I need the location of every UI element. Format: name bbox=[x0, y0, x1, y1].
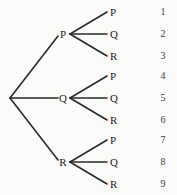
outcome-number-6: 6 bbox=[156, 115, 170, 125]
node-label-stage1-q: Q bbox=[57, 93, 69, 104]
outcome-number-5: 5 bbox=[156, 93, 170, 103]
outcome-number-2: 2 bbox=[156, 29, 170, 39]
leaf-label-r-q: Q bbox=[110, 157, 122, 168]
leaf-label-p-q: Q bbox=[110, 29, 122, 40]
probability-tree-diagram: P Q R P Q R P Q R P Q R 1 2 3 4 5 6 7 8 … bbox=[0, 0, 177, 195]
branch-r-to-r bbox=[70, 162, 107, 184]
outcome-number-9: 9 bbox=[156, 179, 170, 189]
leaf-label-q-r: R bbox=[110, 115, 122, 126]
outcome-number-1: 1 bbox=[156, 7, 170, 17]
outcome-number-3: 3 bbox=[156, 51, 170, 61]
branch-root-to-p bbox=[10, 36, 58, 98]
leaf-label-q-q: Q bbox=[110, 93, 122, 104]
outcome-number-7: 7 bbox=[156, 135, 170, 145]
branch-root-to-r bbox=[10, 98, 58, 160]
node-label-stage1-r: R bbox=[57, 157, 69, 168]
branch-q-to-r bbox=[70, 98, 107, 120]
leaf-label-p-p: P bbox=[110, 7, 122, 18]
leaf-label-p-r: R bbox=[110, 51, 122, 62]
leaf-label-q-p: P bbox=[110, 71, 122, 82]
outcome-number-8: 8 bbox=[156, 157, 170, 167]
leaf-label-r-p: P bbox=[110, 135, 122, 146]
tree-branch-lines bbox=[0, 0, 177, 195]
branch-q-to-p bbox=[70, 76, 107, 98]
branch-p-to-p bbox=[70, 12, 107, 34]
branch-p-to-r bbox=[70, 34, 107, 56]
branch-r-to-p bbox=[70, 140, 107, 162]
node-label-stage1-p: P bbox=[57, 29, 69, 40]
leaf-label-r-r: R bbox=[110, 179, 122, 190]
outcome-number-4: 4 bbox=[156, 71, 170, 81]
